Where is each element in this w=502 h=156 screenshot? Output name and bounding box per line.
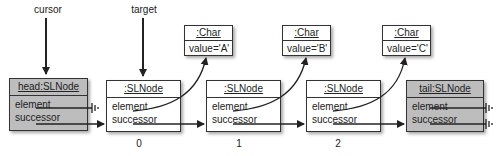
index-label-1: 1 — [232, 138, 246, 149]
element-field: element — [407, 100, 483, 113]
tail-node: tail:SLNode element successor — [406, 80, 484, 132]
element-field: element — [107, 100, 180, 113]
node-title: :SLNode — [307, 81, 380, 98]
node-0: :SLNode element successor — [106, 80, 181, 132]
node-2: :SLNode element successor — [306, 80, 381, 132]
successor-field: successor — [107, 113, 180, 126]
char-c: :Char value='C' — [382, 25, 431, 56]
successor-field: successor — [10, 111, 87, 124]
index-label-0: 0 — [132, 138, 146, 149]
index-label-2: 2 — [331, 138, 345, 149]
char-title: :Char — [383, 26, 430, 41]
char-title: :Char — [283, 26, 330, 41]
successor-field: successor — [307, 113, 380, 126]
char-value: value='C' — [383, 41, 430, 56]
element-field: element — [207, 100, 280, 113]
char-b: :Char value='B' — [282, 25, 331, 56]
head-node: head:SLNode element successor — [9, 78, 88, 131]
char-a: :Char value='A' — [184, 25, 233, 56]
node-title: head:SLNode — [10, 79, 87, 96]
node-1: :SLNode element successor — [206, 80, 281, 132]
cursor-label: cursor — [28, 4, 68, 15]
char-value: value='B' — [283, 41, 330, 56]
element-field: element — [10, 98, 87, 111]
node-title: :SLNode — [107, 81, 180, 98]
char-value: value='A' — [185, 41, 232, 56]
char-title: :Char — [185, 26, 232, 41]
node-title: :SLNode — [207, 81, 280, 98]
target-label: target — [124, 4, 164, 15]
successor-field: successor — [407, 113, 483, 126]
successor-field: successor — [207, 113, 280, 126]
element-field: element — [307, 100, 380, 113]
node-title: tail:SLNode — [407, 81, 483, 98]
